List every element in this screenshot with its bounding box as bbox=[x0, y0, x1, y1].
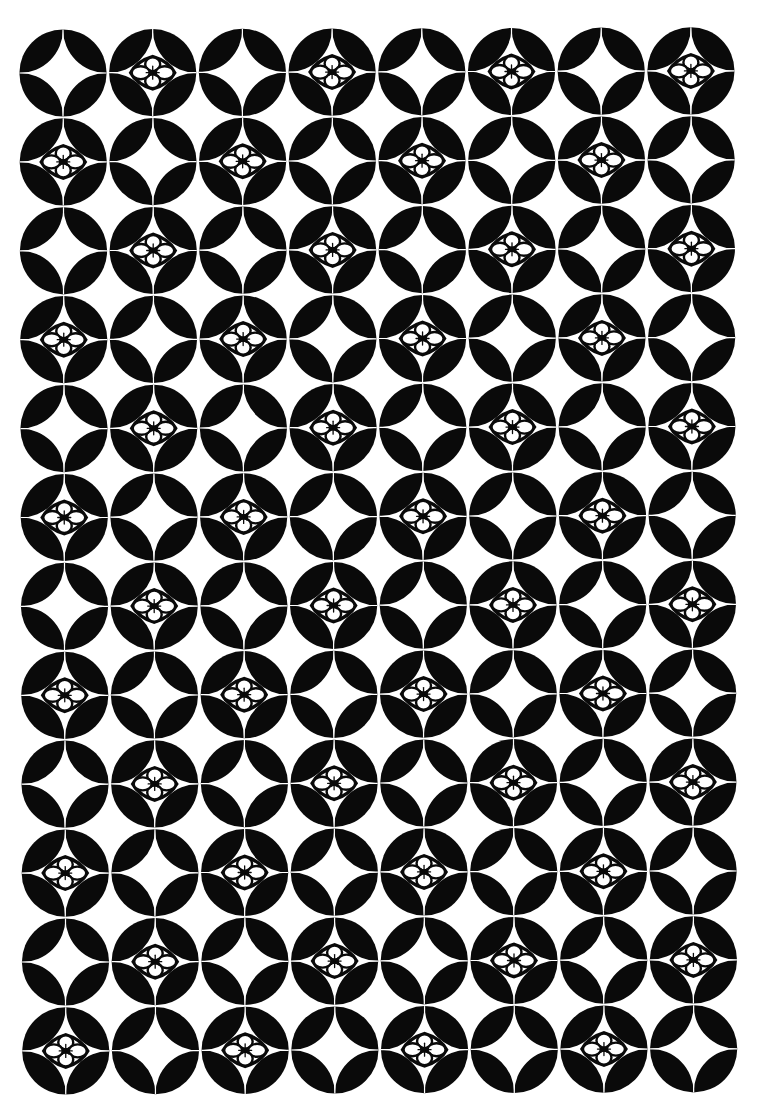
shippo-cell-plain bbox=[559, 561, 646, 648]
shippo-cell-plain bbox=[650, 827, 737, 914]
shippo-cell-flower bbox=[380, 651, 467, 738]
shippo-cell-flower bbox=[380, 828, 467, 915]
shippo-cell-plain bbox=[289, 117, 376, 204]
shippo-cell-flower bbox=[379, 295, 466, 382]
shippo-cell-flower bbox=[559, 650, 646, 737]
shippo-cell-flower bbox=[379, 473, 466, 560]
shippo-cell-flower bbox=[289, 206, 376, 293]
shippo-cell-plain bbox=[199, 29, 286, 116]
shippo-cell-flower bbox=[468, 28, 555, 115]
shippo-cell-flower bbox=[110, 385, 197, 472]
shippo-cell-flower bbox=[22, 1007, 109, 1094]
shippo-cell-plain bbox=[471, 1006, 558, 1093]
shippo-cell-flower bbox=[200, 473, 287, 560]
shippo-cell-flower bbox=[200, 296, 287, 383]
shippo-cell-plain bbox=[290, 473, 377, 560]
shippo-cell-plain bbox=[560, 917, 647, 1004]
shippo-cell-plain bbox=[469, 295, 556, 382]
shippo-cell-flower bbox=[378, 117, 465, 204]
shippo-cell-plain bbox=[20, 207, 107, 294]
shippo-cell-flower bbox=[650, 916, 737, 1003]
shippo-cell-plain bbox=[649, 650, 736, 737]
shippo-cell-flower bbox=[648, 383, 735, 470]
shippo-cell-plain bbox=[379, 384, 466, 471]
shippo-cell-flower bbox=[560, 828, 647, 915]
shippo-cell-flower bbox=[201, 829, 288, 916]
shippo-cell-flower bbox=[558, 117, 645, 204]
shippo-cell-flower bbox=[648, 205, 735, 292]
shippo-cell-plain bbox=[19, 29, 106, 116]
shippo-cell-flower bbox=[110, 207, 197, 294]
shippo-cell-plain bbox=[21, 741, 108, 828]
shippo-cell-plain bbox=[291, 1006, 378, 1093]
shippo-cell-flower bbox=[291, 740, 378, 827]
shippo-cell-flower bbox=[21, 652, 108, 739]
shippo-pattern bbox=[0, 0, 763, 1111]
shippo-cell-flower bbox=[470, 739, 557, 826]
shippo-cell-plain bbox=[381, 917, 468, 1004]
shippo-cell-plain bbox=[21, 563, 108, 650]
shippo-cell-plain bbox=[470, 828, 557, 915]
shippo-cell-plain bbox=[378, 28, 465, 115]
shippo-cell-flower bbox=[111, 740, 198, 827]
shippo-cell-flower bbox=[649, 739, 736, 826]
shippo-cell-plain bbox=[111, 651, 198, 738]
shippo-cell-plain bbox=[468, 117, 555, 204]
shippo-cell-plain bbox=[558, 205, 645, 292]
shippo-cell-flower bbox=[111, 563, 198, 650]
shippo-cell-flower bbox=[469, 561, 556, 648]
shippo-cell-plain bbox=[560, 739, 647, 826]
shippo-cell-plain bbox=[469, 472, 556, 559]
shippo-cell-plain bbox=[291, 829, 378, 916]
shippo-cell-flower bbox=[20, 118, 107, 205]
shippo-cell-plain bbox=[559, 383, 646, 470]
shippo-cell-plain bbox=[470, 650, 557, 737]
shippo-cell-plain bbox=[200, 384, 287, 471]
shippo-cell-flower bbox=[199, 118, 286, 205]
shippo-cell-plain bbox=[380, 562, 467, 649]
shippo-cell-plain bbox=[379, 206, 466, 293]
shippo-cell-flower bbox=[381, 1006, 468, 1093]
shippo-cell-flower bbox=[470, 917, 557, 1004]
shippo-cell-flower bbox=[647, 27, 734, 114]
shippo-cell-flower bbox=[109, 29, 196, 116]
shippo-cell-flower bbox=[201, 651, 288, 738]
shippo-cell-flower bbox=[202, 1007, 289, 1094]
shippo-cell-plain bbox=[558, 28, 645, 115]
shippo-cell-flower bbox=[289, 29, 376, 116]
shippo-cell-flower bbox=[649, 561, 736, 648]
shippo-cell-plain bbox=[110, 296, 197, 383]
shippo-cell-flower bbox=[20, 296, 107, 383]
shippo-cell-plain bbox=[648, 294, 735, 381]
shippo-cell-plain bbox=[290, 651, 377, 738]
shippo-cell-flower bbox=[468, 206, 555, 293]
shippo-cell-flower bbox=[560, 1006, 647, 1093]
shippo-cell-plain bbox=[380, 739, 467, 826]
shippo-cell-flower bbox=[22, 830, 109, 917]
shippo-cell-plain bbox=[201, 740, 288, 827]
shippo-cell-plain bbox=[111, 829, 198, 916]
shippo-cell-plain bbox=[201, 918, 288, 1005]
shippo-cell-plain bbox=[289, 295, 376, 382]
shippo-cell-plain bbox=[110, 474, 197, 561]
shippo-cell-flower bbox=[558, 294, 645, 381]
shippo-cell-plain bbox=[650, 1005, 737, 1092]
shippo-cell-plain bbox=[109, 118, 196, 205]
shippo-cell-plain bbox=[199, 207, 286, 294]
shippo-cell-flower bbox=[469, 384, 556, 471]
shippo-cell-flower bbox=[290, 384, 377, 471]
shippo-cell-plain bbox=[20, 385, 107, 472]
shippo-cell-plain bbox=[112, 1007, 199, 1094]
shippo-cell-flower bbox=[291, 918, 378, 1005]
shippo-cell-flower bbox=[290, 562, 377, 649]
shippo-cell-plain bbox=[22, 918, 109, 1005]
shippo-cell-plain bbox=[649, 472, 736, 559]
shippo-cell-flower bbox=[21, 474, 108, 561]
shippo-cell-plain bbox=[648, 116, 735, 203]
shippo-cell-flower bbox=[559, 472, 646, 559]
shippo-cell-plain bbox=[200, 562, 287, 649]
shippo-cell-flower bbox=[112, 918, 199, 1005]
